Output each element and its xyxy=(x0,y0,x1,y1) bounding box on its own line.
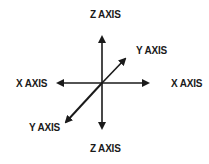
y-axis-upright-arrow xyxy=(102,59,125,83)
z-axis-top-label: Z AXIS xyxy=(90,9,121,20)
x-axis-left-label: X AXIS xyxy=(16,78,47,89)
y-axis-bottom-left-label: Y AXIS xyxy=(29,122,60,133)
y-axis-top-right-label: Y AXIS xyxy=(136,45,167,56)
y-axis-downleft-arrow xyxy=(66,83,102,122)
z-axis-bottom-label: Z AXIS xyxy=(90,143,121,154)
x-axis-right-label: X AXIS xyxy=(171,78,202,89)
